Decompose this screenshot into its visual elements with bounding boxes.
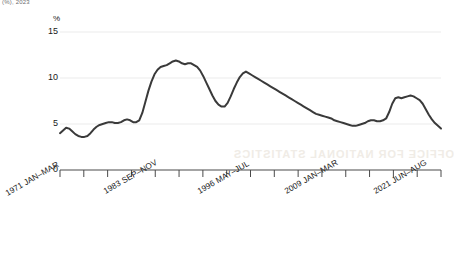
y-axis-unit-label: %: [40, 14, 60, 23]
y-axis-tick-10: 10: [38, 72, 58, 82]
axes: [60, 170, 441, 177]
gridlines: [60, 32, 441, 124]
x-axis-ticks: [60, 170, 441, 177]
series-line-unemployment-rate: [60, 61, 441, 137]
y-axis-tick-15: 15: [38, 26, 58, 36]
y-axis-tick-5: 5: [38, 118, 58, 128]
